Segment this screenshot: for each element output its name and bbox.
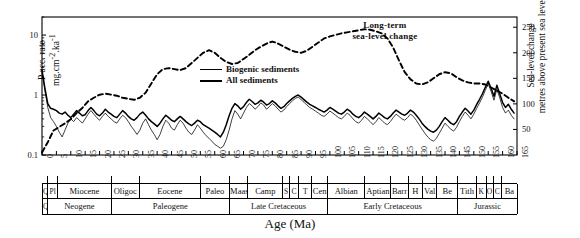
stratigraphic-epoch-cell: Miocene [58,184,111,199]
x-axis-tick: 50 [190,150,199,158]
x-axis-tick: 35 [147,150,156,158]
x-axis-tick: 100 [334,146,343,158]
stratigraphic-epoch-cell: C [290,184,299,199]
x-axis-tick: 85 [291,150,300,158]
stratigraphic-epoch-row: QPlMioceneOligocEocenePaleoMaasCampSCTCe… [42,183,517,199]
x-axis-tick: 140 [449,146,458,158]
x-axis-tick: 10 [75,150,84,158]
y-axis-left-label-line1: P acc. rate [37,40,47,80]
y-axis-right-tick: 100 [522,99,548,109]
legend-label-all: All sediments [226,75,278,85]
stage-boundary-tick [364,176,365,183]
annotation-line2: sea-level change [330,31,440,42]
stage-boundary-tick [390,176,391,183]
stratigraphic-epoch-cell: Pl [48,184,58,199]
stage-boundary-tick [289,176,290,183]
stratigraphic-epoch-cell: O [487,184,494,199]
y-axis-left-tick: 0.1 [12,150,38,160]
legend-line-biogenic-icon [200,64,222,74]
y-axis-right-tick: 150 [522,73,548,83]
stratigraphic-period-row: QNeogenePaleogeneLate CretaceousEarly Cr… [42,198,517,215]
x-axis-tick: 80 [276,150,285,158]
stratigraphic-epoch-cell: Maas [230,184,248,199]
x-axis-tick: 5 [60,154,69,158]
x-axis-tick: 150 [478,146,487,158]
x-axis-tick: 70 [248,150,257,158]
phosphorus-sealevel-chart: P acc. rate mg.cm-2.ka-1 Sea-level chang… [0,0,580,238]
stage-boundary-tick [111,176,112,183]
x-axis-tick: 95 [319,150,328,158]
series-long-term-sea-level-change [42,29,514,152]
stage-boundary-tick [501,176,502,183]
stage-boundary-tick [282,176,283,183]
x-axis-tick: 25 [118,150,127,158]
stratigraphic-epoch-cell: Paleo [201,184,230,199]
stratigraphic-epoch-cell: S [283,184,290,199]
stratigraphic-epoch-cell: Camp [248,184,283,199]
x-axis-tick: 125 [406,146,415,158]
x-axis-tick: 40 [161,150,170,158]
x-axis-tick: 145 [463,146,472,158]
y-axis-left-label: P acc. rate mg.cm-2.ka-1 [37,5,61,115]
x-axis-title: Age (Ma) [0,216,580,232]
stratigraphic-period-cell: Jurassic [458,199,518,214]
stratigraphic-period-cell: Late Cretaceous [230,199,328,214]
x-axis-tick: 130 [420,146,429,158]
y-axis-left-tick: 10 [12,30,38,40]
y-axis-left-tick: 1 [12,90,38,100]
stratigraphic-period-cell: Paleogene [112,199,231,214]
stratigraphic-epoch-cell: T [299,184,312,199]
legend-label-biogenic: Biogenic sediments [226,64,299,74]
legend-line-all-icon [200,75,222,85]
stage-boundary-ticks [42,176,517,183]
x-axis-tick: 30 [132,150,141,158]
stage-boundary-tick [486,176,487,183]
stage-boundary-tick [57,176,58,183]
stratigraphic-epoch-cell: Val [423,184,437,199]
x-axis-tick: 90 [305,150,314,158]
stage-boundary-tick [200,176,201,183]
x-axis-tick: 75 [262,150,271,158]
stage-boundary-tick [457,176,458,183]
x-axis-tick: 135 [435,146,444,158]
x-axis-tick: 55 [204,150,213,158]
stage-boundary-tick [408,176,409,183]
x-axis-tick: 45 [176,150,185,158]
y-axis-left-label-line2: mg.cm-2.ka-1 [47,5,61,115]
stratigraphic-epoch-cell: Eocene [140,184,201,199]
legend-item-all: All sediments [200,74,299,85]
stage-boundary-tick [493,176,494,183]
stratigraphic-epoch-cell: Albian [328,184,365,199]
chart-annotation: Long-term sea-level change [330,20,440,42]
x-axis-tick: 120 [391,146,400,158]
stratigraphic-epoch-cell: Oligoc [112,184,141,199]
stratigraphic-epoch-cell: C [494,184,502,199]
stratigraphic-epoch-cell: Be [437,184,458,199]
y-axis-right-tick: 200 [522,48,548,58]
stage-boundary-tick [422,176,423,183]
stratigraphic-epoch-cell: H [409,184,423,199]
stage-boundary-tick [229,176,230,183]
stage-boundary-tick [247,176,248,183]
stratigraphic-period-cell: Neogene [48,199,111,214]
x-axis-tick: 110 [363,146,372,158]
stratigraphic-epoch-cell: Aptian [365,184,391,199]
x-axis-tick: 165 [521,146,530,158]
y-axis-right-tick: 50 [522,124,548,134]
x-axis-tick: 155 [492,146,501,158]
x-axis-tick: 105 [348,146,357,158]
x-axis-tick: 15 [89,150,98,158]
x-axis-tick: 20 [104,150,113,158]
stage-boundary-tick [139,176,140,183]
x-axis-tick: 160 [507,146,516,158]
stage-boundary-tick [436,176,437,183]
legend-item-biogenic: Biogenic sediments [200,63,299,74]
x-axis-tick: 0 [46,154,55,158]
stratigraphic-scale: QPlMioceneOligocEocenePaleoMaasCampSCTCe… [42,183,517,213]
stage-boundary-tick [327,176,328,183]
stratigraphic-epoch-cell: Cen [312,184,328,199]
x-axis-tick: 115 [377,146,386,158]
x-axis-tick: 60 [219,150,228,158]
x-axis-tick: 65 [233,150,242,158]
stratigraphic-epoch-cell: Barr [391,184,408,199]
